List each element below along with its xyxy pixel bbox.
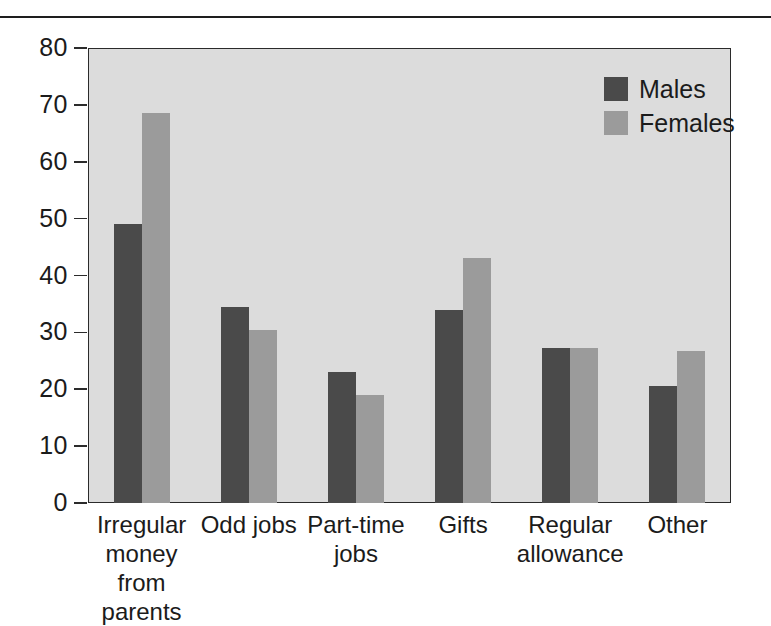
- y-axis-tick: [74, 502, 87, 504]
- x-axis-category-label: Odd jobs: [195, 510, 302, 539]
- y-axis-tick-label: 80: [8, 35, 68, 60]
- y-axis-tick: [74, 218, 87, 220]
- x-axis-category-label: Other: [624, 510, 731, 539]
- y-axis-tick: [74, 388, 87, 390]
- y-axis-tick: [74, 104, 87, 106]
- legend-swatch-males-icon: [604, 77, 628, 101]
- bar-females: [249, 330, 277, 503]
- bar-males: [114, 224, 142, 503]
- y-axis-tick-label: 30: [8, 319, 68, 344]
- y-axis-tick: [74, 332, 87, 334]
- x-axis-category-line: Irregular: [88, 510, 195, 539]
- x-axis-category-line: Odd jobs: [195, 510, 302, 539]
- bar-females: [356, 395, 384, 503]
- x-axis-category-line: parents: [88, 597, 195, 626]
- bar-females: [570, 348, 598, 503]
- legend-label-males: Males: [639, 77, 706, 102]
- x-axis-category-line: Other: [624, 510, 731, 539]
- legend-swatch-females-icon: [604, 111, 628, 135]
- x-axis-category-label: Gifts: [410, 510, 517, 539]
- bar-males: [435, 310, 463, 503]
- bar-males: [542, 348, 570, 503]
- x-axis-category-line: jobs: [302, 539, 409, 568]
- bar-females: [463, 258, 491, 503]
- y-axis-tick: [74, 445, 87, 447]
- y-axis-tick-label: 60: [8, 149, 68, 174]
- bar-males: [328, 372, 356, 503]
- y-axis-tick-label: 50: [8, 206, 68, 231]
- x-axis-category-label: Irregularmoney fromparents: [88, 510, 195, 626]
- bar-females: [677, 351, 705, 503]
- y-axis-tick: [74, 47, 87, 49]
- y-axis-tick: [74, 161, 87, 163]
- legend-label-females: Females: [639, 111, 735, 136]
- bar-males: [221, 307, 249, 503]
- x-axis-category-line: Part-time: [302, 510, 409, 539]
- legend-item-females: Females: [604, 106, 734, 140]
- chart-legend: Males Females: [604, 72, 734, 140]
- bar-females: [142, 113, 170, 503]
- x-axis-category-line: Regular: [517, 510, 624, 539]
- bar-males: [649, 386, 677, 503]
- x-axis-category-line: money from: [88, 539, 195, 597]
- y-axis-tick-label: 20: [8, 376, 68, 401]
- y-axis-tick: [74, 275, 87, 277]
- y-axis-tick-label: 70: [8, 92, 68, 117]
- y-axis-tick-label: 40: [8, 263, 68, 288]
- x-axis-category-label: Regularallowance: [517, 510, 624, 568]
- x-axis-category-label: Part-timejobs: [302, 510, 409, 568]
- y-axis-tick-label: 10: [8, 433, 68, 458]
- x-axis-category-line: Gifts: [410, 510, 517, 539]
- y-axis-tick-label: 0: [8, 490, 68, 515]
- x-axis-category-line: allowance: [517, 539, 624, 568]
- legend-item-males: Males: [604, 72, 734, 106]
